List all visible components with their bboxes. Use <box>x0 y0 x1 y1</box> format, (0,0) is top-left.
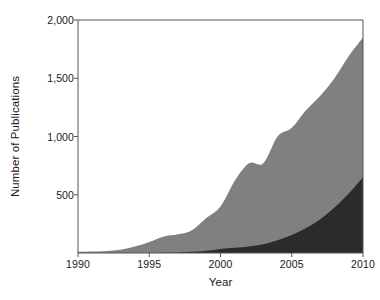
x-tick-label: 2005 <box>270 258 314 270</box>
plot-canvas <box>0 0 380 300</box>
publications-area-chart: Number of Publications 5001,0001,5002,00… <box>0 0 380 300</box>
x-tick-label: 2000 <box>199 258 243 270</box>
x-axis-title: Year <box>78 276 363 288</box>
x-tick-label: 1995 <box>127 258 171 270</box>
x-tick-label: 1990 <box>56 258 100 270</box>
x-tick-label: 2010 <box>341 258 380 270</box>
